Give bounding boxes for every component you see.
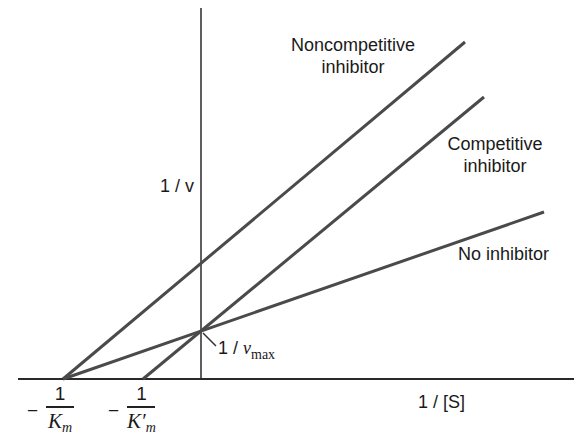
denominator: K′m xyxy=(127,410,156,439)
vmax-prefix: 1 / xyxy=(218,338,243,358)
y-axis-label-text: 1 / v xyxy=(160,176,194,196)
competitive-label: Competitive inhibitor xyxy=(440,133,550,177)
numerator: 1 xyxy=(55,384,66,404)
fraction: 1 Km xyxy=(46,384,74,439)
minus-sign: − xyxy=(27,400,38,422)
noncompetitive-label: Noncompetitive inhibitor xyxy=(283,34,423,78)
vmax-pointer xyxy=(203,333,216,346)
fraction-bar xyxy=(127,406,155,408)
noncompetitive-inhibitor-line xyxy=(63,42,465,379)
numerator: 1 xyxy=(136,384,147,404)
y-axis-label: 1 / v xyxy=(160,176,194,197)
fraction-bar xyxy=(46,406,74,408)
fraction: 1 K′m xyxy=(127,384,156,439)
x-axis-label-text: 1 / [S] xyxy=(418,392,465,412)
no-inhibitor-label: No inhibitor xyxy=(458,243,578,265)
noncompetitive-label-line2: inhibitor xyxy=(283,56,423,78)
x-tick-neg-inv-km-prime: − 1 K′m xyxy=(108,384,156,439)
noncompetitive-label-line1: Noncompetitive xyxy=(283,34,423,56)
denominator: Km xyxy=(48,410,72,439)
no-inhibitor-line xyxy=(63,212,544,379)
denominator-var: K′ xyxy=(127,409,146,433)
vmax-sub: max xyxy=(251,347,275,362)
denominator-sub: m xyxy=(62,420,72,435)
x-tick-neg-inv-km: − 1 Km xyxy=(27,384,74,439)
competitive-label-line2: inhibitor xyxy=(440,155,550,177)
denominator-sub: m xyxy=(146,420,156,435)
minus-sign: − xyxy=(108,400,119,422)
vmax-label: 1 / vmax xyxy=(218,338,275,363)
vmax-var: v xyxy=(243,338,251,358)
no-inhibitor-label-line1: No inhibitor xyxy=(458,243,578,265)
competitive-label-line1: Competitive xyxy=(440,133,550,155)
denominator-var: K xyxy=(48,409,62,433)
x-axis-label: 1 / [S] xyxy=(418,392,465,413)
competitive-inhibitor-line xyxy=(143,97,484,379)
